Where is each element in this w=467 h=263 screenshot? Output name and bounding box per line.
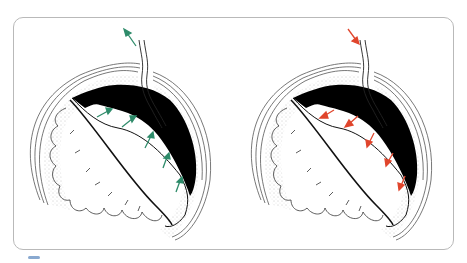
anatomical-illustration-left [0, 0, 233, 263]
fluid-collection [72, 85, 196, 196]
page-marker [28, 256, 40, 259]
fluid-collection [293, 85, 417, 196]
anatomical-illustration-right [233, 0, 466, 263]
panel-irrigation [233, 0, 466, 263]
panel-drainage [0, 0, 233, 263]
